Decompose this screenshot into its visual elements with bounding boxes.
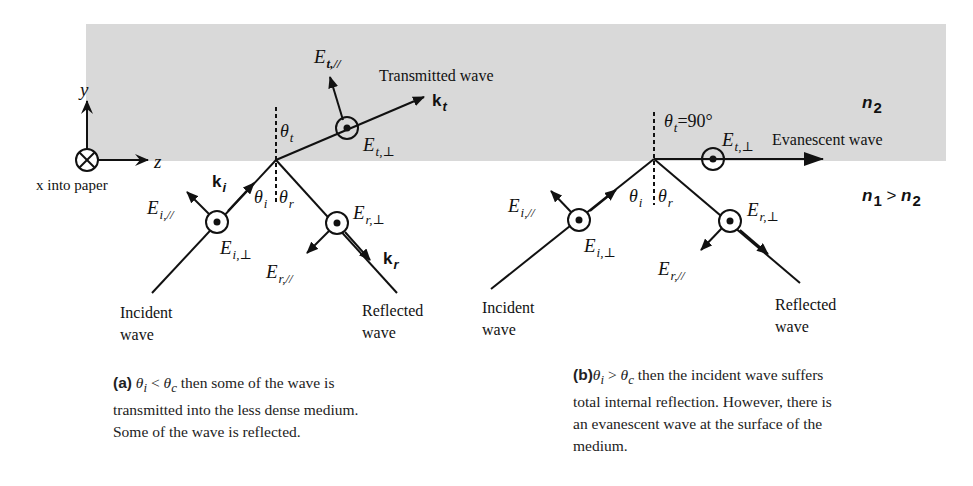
k-r-label: kr (383, 250, 399, 267)
n2-label: n2 (862, 94, 882, 111)
theta-r-label-b: θr (658, 187, 673, 205)
E-t-parallel-label: Et,// (314, 47, 341, 66)
E-t-perp-label: Et,⊥ (363, 135, 395, 154)
k-t-label: kt (432, 92, 447, 109)
E-i-parallel-label-b: Ei,// (508, 196, 535, 215)
incident-wave-label-a: Incidentwave (120, 302, 172, 346)
x-into-paper-note: x into paper (36, 178, 108, 193)
E-i-parallel-label: Ei,// (147, 198, 174, 217)
theta-i-label-b: θi (629, 187, 642, 205)
E-r-parallel-label-b: Er,// (658, 259, 685, 278)
caption-panel-b: (b)θi > θc then the incident wave suffer… (573, 364, 832, 457)
E-i-perp-label-b: Ei,⊥ (584, 236, 616, 255)
reflected-wave-label-b: Reflectedwave (775, 294, 836, 338)
n1-gt-n2-label: n1 > n2 (862, 187, 921, 204)
E-r-perp-label-b: Er,⊥ (747, 200, 779, 219)
k-i-label: ki (212, 173, 226, 190)
incident-wave-label-b: Incidentwave (482, 297, 534, 341)
evanescent-wave-label: Evanescent wave (772, 132, 883, 148)
theta-t-90-label: θt=90° (664, 112, 713, 130)
reflected-wave-label-a: Reflectedwave (362, 300, 423, 344)
caption-panel-a: (a) θi < θc then some of the wave is tra… (113, 372, 358, 443)
theta-t-label: θt (280, 122, 293, 140)
z-axis-label: z (154, 152, 161, 171)
theta-r-label: θr (279, 188, 294, 206)
E-r-parallel-label: Er,// (266, 262, 293, 281)
y-axis-label: y (80, 80, 88, 99)
transmitted-wave-label: Transmitted wave (379, 68, 494, 84)
theta-i-label: θi (254, 188, 267, 206)
E-t-perp-label-b: Et,⊥ (722, 130, 754, 149)
E-r-perp-label: Er,⊥ (353, 203, 385, 222)
E-i-perp-label: Ei,⊥ (220, 238, 252, 257)
